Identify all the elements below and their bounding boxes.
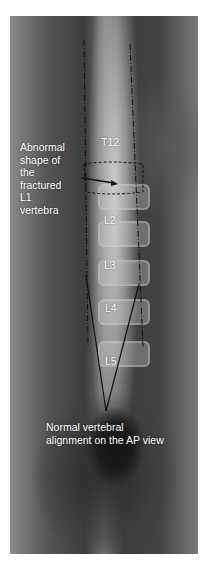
- label-l5: L5: [105, 355, 117, 368]
- annotation-line: Normal vertebral: [46, 421, 164, 434]
- left-boundary-line: [84, 40, 88, 347]
- annotation-line: the: [20, 166, 65, 179]
- annotation-line: fractured: [20, 179, 65, 192]
- annotation-line: alignment on the AP view: [46, 434, 164, 447]
- right-boundary-line: [130, 44, 143, 347]
- fractured-l1-outline: [84, 162, 143, 194]
- alignment-annotation: Normal vertebral alignment on the AP vie…: [46, 421, 164, 446]
- arrow-head-icon: [111, 180, 118, 186]
- annotation-line: vertebra: [20, 204, 65, 217]
- label-t12: T12: [101, 136, 119, 149]
- alignment-line-left: [86, 275, 106, 411]
- label-l3: L3: [104, 259, 116, 272]
- fracture-annotation: Abnormal shape of the fractured L1 verte…: [20, 141, 65, 216]
- annotation-line: shape of: [20, 154, 65, 167]
- annotation-line: L1: [20, 191, 65, 204]
- label-l4: L4: [105, 302, 117, 315]
- annotation-overlay: [0, 0, 207, 569]
- label-l2: L2: [104, 214, 116, 227]
- fracture-arrow-line: [82, 178, 114, 183]
- annotation-line: Abnormal: [20, 141, 65, 154]
